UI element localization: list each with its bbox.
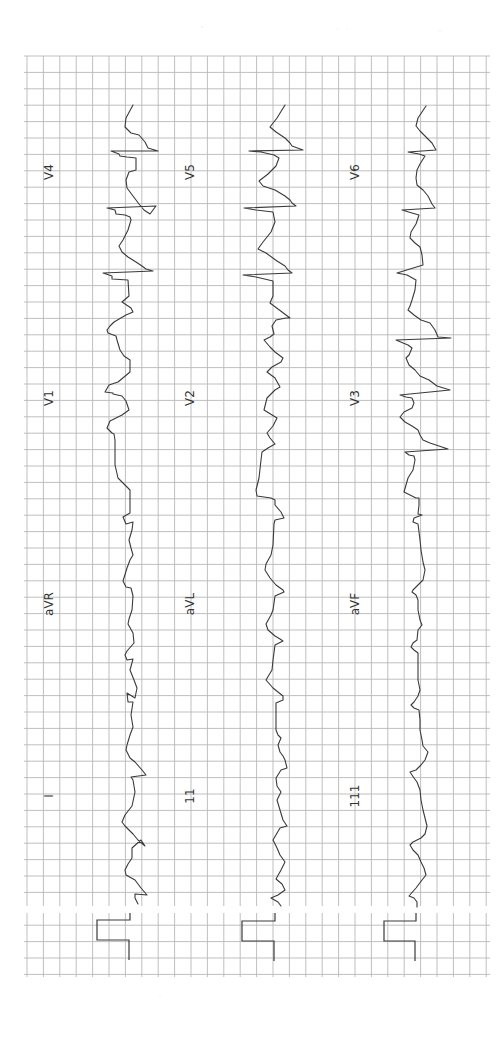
scan-speck [336,28,337,29]
lead-label: aVR [42,592,56,616]
scan-speck [346,28,347,29]
lead-label: V2 [183,390,197,406]
scan-speck [439,30,440,31]
ecg-sheet: V4V1aVRIV5V2aVL11V6V3aVF111 [0,0,503,1039]
lead-label: 111 [348,785,362,808]
lead-label: V4 [42,164,56,180]
lead-label: V1 [42,390,56,406]
lead-label: V3 [348,390,362,406]
lead-label: V5 [183,164,197,180]
scan-speck [159,994,160,995]
scan-speck [201,26,203,28]
lead-label: I [42,794,56,798]
lead-label: V6 [348,164,362,180]
lead-label: aVL [183,593,197,616]
lead-label: 11 [183,788,197,803]
lead-label: aVF [348,593,362,616]
paper-background [0,0,503,1039]
